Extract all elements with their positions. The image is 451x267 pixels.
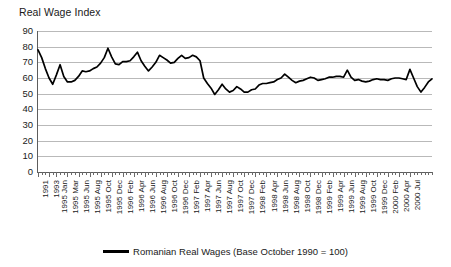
x-tick	[215, 172, 216, 175]
x-tick-label: 1996 Oct	[170, 180, 179, 212]
x-tick	[134, 172, 135, 177]
x-tick	[432, 172, 433, 175]
x-tick	[358, 172, 359, 175]
x-tick	[160, 172, 161, 175]
x-tick	[56, 172, 57, 177]
x-tick	[90, 172, 91, 177]
x-tick	[277, 172, 278, 177]
x-tick	[178, 172, 179, 177]
gridline-y-50	[38, 94, 432, 95]
x-tick	[141, 172, 142, 175]
x-tick	[347, 172, 348, 175]
x-tick	[263, 172, 264, 175]
x-tick-label: 1999 Aug	[358, 180, 367, 214]
x-tick	[325, 172, 326, 175]
x-tick	[329, 172, 330, 175]
x-tick	[218, 172, 219, 175]
x-tick-label: 1997 Dec	[247, 180, 256, 214]
x-tick	[126, 172, 127, 175]
x-tick	[266, 172, 267, 177]
x-tick	[333, 172, 334, 177]
x-tick	[406, 172, 407, 175]
x-tick-label: 2000 Apr	[402, 180, 411, 212]
x-tick-label: 1997 Feb	[192, 180, 201, 214]
x-tick	[428, 172, 429, 175]
x-tick-label: 1996 Jun	[148, 180, 157, 213]
x-tick	[255, 172, 256, 177]
x-tick-label: 1997 Oct	[236, 180, 245, 212]
x-tick	[377, 172, 378, 177]
x-tick	[414, 172, 415, 175]
x-tick	[355, 172, 356, 177]
x-tick	[362, 172, 363, 175]
x-tick-label: 1996 Aug	[159, 180, 168, 214]
gridline-y-10	[38, 156, 432, 157]
x-tick	[171, 172, 172, 175]
x-tick-label: 1998 Dec	[314, 180, 323, 214]
x-tick-label: 1995 Aug	[93, 180, 102, 214]
y-tick-label-50: 50	[3, 88, 33, 99]
x-tick	[425, 172, 426, 175]
gridline-y-40	[38, 109, 432, 110]
plot-area	[38, 31, 432, 172]
legend-swatch-romanian-real-wages	[103, 250, 129, 253]
x-tick-label: 1995 Mar	[71, 180, 80, 214]
x-tick	[252, 172, 253, 175]
gridline-y-30	[38, 125, 432, 126]
x-tick	[285, 172, 286, 175]
x-tick	[207, 172, 208, 175]
x-tick	[410, 172, 411, 177]
x-tick	[38, 172, 39, 177]
x-tick	[71, 172, 72, 175]
x-tick-label: 2000 Feb	[391, 180, 400, 214]
x-tick-label: 1995 Jan	[60, 180, 69, 213]
x-tick	[156, 172, 157, 177]
x-tick-label: 1996 Apr	[137, 180, 146, 212]
x-tick	[310, 172, 311, 177]
x-tick	[351, 172, 352, 175]
x-tick-label: 1996 Feb	[126, 180, 135, 214]
x-tick	[130, 172, 131, 175]
x-tick	[82, 172, 83, 175]
x-tick-label: 1999 Feb	[325, 180, 334, 214]
x-tick	[366, 172, 367, 177]
x-tick	[152, 172, 153, 175]
x-tick	[79, 172, 80, 177]
x-tick	[222, 172, 223, 177]
x-tick-label: 1999 Oct	[369, 180, 378, 212]
y-tick-label-70: 70	[3, 56, 33, 67]
gridline-y-20	[38, 141, 432, 142]
x-tick	[292, 172, 293, 175]
x-tick	[259, 172, 260, 175]
x-tick	[148, 172, 149, 175]
x-tick	[373, 172, 374, 175]
x-tick	[185, 172, 186, 175]
x-tick	[112, 172, 113, 177]
x-tick	[137, 172, 138, 175]
x-tick	[322, 172, 323, 177]
x-tick	[97, 172, 98, 175]
x-tick	[60, 172, 61, 175]
gridline-y-80	[38, 47, 432, 48]
x-tick	[67, 172, 68, 177]
x-tick	[204, 172, 205, 175]
x-tick-label: 1995 Dec	[115, 180, 124, 214]
y-tick-label-10: 10	[3, 150, 33, 161]
x-tick	[45, 172, 46, 175]
x-tick-label: 1999 Jun	[347, 180, 356, 213]
x-tick-label: 1999 Dec	[380, 180, 389, 214]
gridline-y-90	[38, 31, 432, 32]
x-tick-label: 1995 Oct	[104, 180, 113, 212]
x-tick	[281, 172, 282, 175]
y-axis-line	[37, 31, 38, 173]
x-tick-label: 1998 Oct	[303, 180, 312, 212]
x-tick	[336, 172, 337, 175]
chart-title: Real Wage Index	[19, 6, 101, 18]
x-tick-label: 1996 Dec	[181, 180, 190, 214]
x-tick	[193, 172, 194, 175]
x-tick-label: 1998 Jun	[281, 180, 290, 213]
x-tick	[274, 172, 275, 175]
x-tick	[229, 172, 230, 175]
legend: Romanian Real Wages (Base October 1990 =…	[0, 246, 451, 257]
x-tick	[86, 172, 87, 175]
